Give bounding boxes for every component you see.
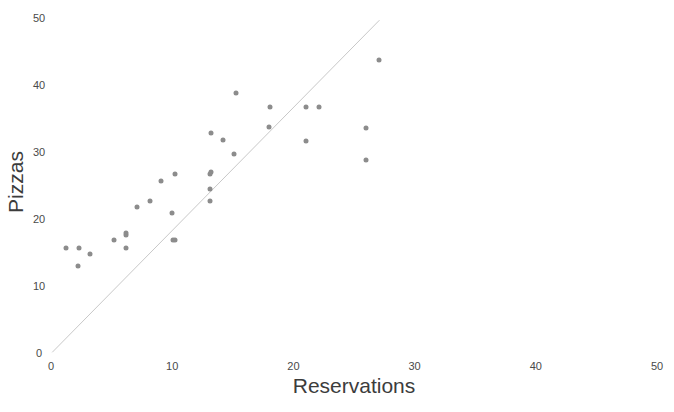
trend-line xyxy=(0,0,674,412)
x-tick-label: 50 xyxy=(651,361,663,372)
data-point xyxy=(364,157,369,162)
data-point xyxy=(124,246,129,251)
data-point xyxy=(221,138,226,143)
data-point xyxy=(159,178,164,183)
data-point xyxy=(124,230,129,235)
data-point xyxy=(148,198,153,203)
y-tick-label: 20 xyxy=(33,213,45,224)
data-point xyxy=(172,171,177,176)
data-point xyxy=(208,169,213,174)
data-point xyxy=(75,264,80,269)
data-point xyxy=(135,204,140,209)
x-tick-label: 40 xyxy=(530,361,542,372)
data-point xyxy=(303,138,308,143)
data-point xyxy=(208,130,213,135)
x-tick-label: 10 xyxy=(166,361,178,372)
data-point xyxy=(112,238,117,243)
data-point xyxy=(207,199,212,204)
data-point xyxy=(170,211,175,216)
y-tick-label: 50 xyxy=(33,12,45,23)
y-tick-label: 10 xyxy=(33,280,45,291)
data-point xyxy=(76,245,81,250)
data-point xyxy=(267,124,272,129)
data-point xyxy=(377,58,382,63)
data-point xyxy=(268,104,273,109)
data-point xyxy=(87,252,92,257)
x-axis-title: Reservations xyxy=(293,375,416,396)
data-point xyxy=(364,125,369,130)
y-tick-label: 0 xyxy=(36,348,42,359)
y-tick-label: 40 xyxy=(33,79,45,90)
data-point xyxy=(316,104,321,109)
data-point xyxy=(234,91,239,96)
y-tick-label: 30 xyxy=(33,146,45,157)
plot-area: 01020304050 01020304050 Reservations Piz… xyxy=(0,0,674,412)
data-point xyxy=(63,246,68,251)
data-point xyxy=(207,186,212,191)
data-point xyxy=(232,151,237,156)
data-point xyxy=(303,104,308,109)
x-tick-label: 0 xyxy=(48,361,54,372)
data-point xyxy=(171,238,176,243)
x-tick-label: 20 xyxy=(287,361,299,372)
x-tick-label: 30 xyxy=(408,361,420,372)
y-axis-title: Pizzas xyxy=(5,151,26,213)
scatter-plot-figure: 01020304050 01020304050 Reservations Piz… xyxy=(0,0,674,412)
